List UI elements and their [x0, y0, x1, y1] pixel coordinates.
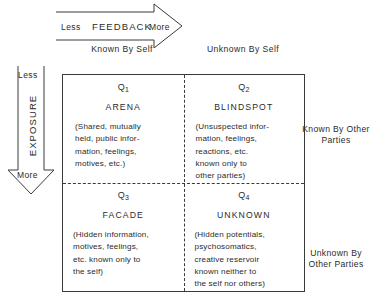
exposure-less-label: Less: [18, 70, 38, 80]
quadrant-q4-code-index: 4: [245, 194, 249, 201]
johari-window-diagram: Less FEEDBACK More Less EXPOSURE More Kn…: [0, 0, 372, 302]
column-header-known-by-self: Known By Self: [62, 44, 182, 55]
column-header-unknown-by-self: Unknown By Self: [183, 44, 303, 55]
exposure-more-label: More: [17, 170, 38, 180]
quadrant-q3-code-index: 3: [125, 194, 129, 201]
quadrant-q2-blindspot: Q2 BLINDSPOT (Unsuspected infor- mation,…: [184, 75, 305, 183]
quadrant-q3-code: Q3: [72, 190, 175, 201]
quadrant-q2-body: (Unsuspected infor- mation, feelings, re…: [193, 121, 296, 182]
quadrant-q3-body: (Hidden information, motives, feelings, …: [72, 229, 175, 278]
quadrant-q4-body: (Hidden potentials, psychosomatics, crea…: [193, 229, 296, 290]
quadrant-q1-code-index: 1: [125, 86, 129, 93]
quadrant-q4-title: UNKNOWN: [193, 210, 296, 220]
quadrant-q3-facade: Q3 FACADE (Hidden information, motives, …: [63, 183, 184, 291]
quadrant-q1-code: Q1: [72, 82, 175, 93]
quadrant-q2-code-index: 2: [245, 86, 249, 93]
quadrant-q4-code: Q4: [193, 190, 296, 201]
quadrant-q3-title: FACADE: [72, 210, 175, 220]
quadrant-q2-title: BLINDSPOT: [193, 102, 296, 112]
quadrant-q1-arena: Q1 ARENA (Shared, mutually held, public …: [63, 75, 184, 183]
feedback-more-label: More: [149, 22, 170, 32]
quadrant-q3-code-letter: Q: [118, 190, 125, 200]
feedback-axis-label: FEEDBACK: [92, 21, 152, 32]
row-label-known-by-other-parties: Known By Other Parties: [301, 124, 371, 146]
quadrant-q1-title: ARENA: [72, 102, 175, 112]
quadrant-q2-code: Q2: [193, 82, 296, 93]
quadrant-q1-body: (Shared, mutually held, public infor- ma…: [72, 121, 175, 170]
quadrant-q4-unknown: Q4 UNKNOWN (Hidden potentials, psychosom…: [184, 183, 305, 291]
quadrant-matrix: Q1 ARENA (Shared, mutually held, public …: [62, 74, 305, 292]
quadrant-q1-code-letter: Q: [118, 82, 125, 92]
row-label-unknown-by-other-parties: Unknown By Other Parties: [301, 248, 371, 270]
feedback-less-label: Less: [61, 22, 81, 32]
exposure-axis-label: EXPOSURE: [27, 92, 38, 160]
